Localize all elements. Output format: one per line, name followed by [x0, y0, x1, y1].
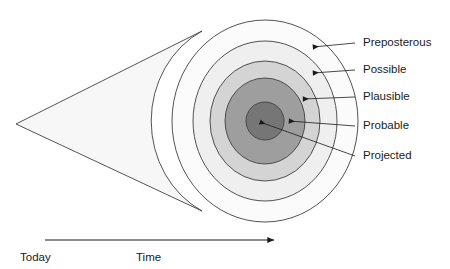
axis-label-today: Today	[20, 251, 51, 263]
zone-label-possible: Possible	[363, 63, 406, 75]
diagram-canvas: Preposterous Possible Plausible Probable…	[0, 0, 450, 269]
time-axis: Today Time	[20, 240, 274, 263]
zone-labels: Preposterous Possible Plausible Probable…	[363, 36, 432, 161]
zone-label-preposterous: Preposterous	[363, 36, 432, 48]
zone-ellipses	[172, 20, 358, 222]
zone-label-projected: Projected	[363, 149, 412, 161]
zone-label-probable: Probable	[363, 119, 409, 131]
axis-label-time: Time	[136, 251, 161, 263]
zone-label-plausible: Plausible	[363, 90, 410, 102]
zone-ellipse-projected	[246, 102, 284, 140]
futures-cone-diagram: Preposterous Possible Plausible Probable…	[0, 0, 450, 269]
